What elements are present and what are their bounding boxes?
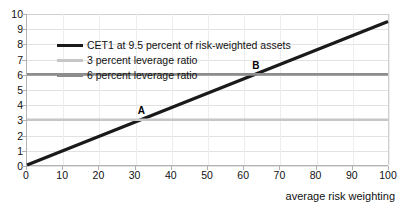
legend-swatch-0	[57, 44, 83, 48]
x-tick-label-30: 30	[120, 170, 150, 181]
x-tick-mark-40	[171, 166, 172, 170]
y-tick-label-9: 9	[3, 24, 23, 35]
y-tick-label-1: 1	[3, 146, 23, 157]
x-tick-mark-90	[352, 166, 353, 170]
x-axis-label: average risk weighting	[286, 190, 395, 202]
y-tick-label-7: 7	[3, 55, 23, 66]
y-tick-label-4: 4	[3, 100, 23, 111]
plot-area: AB CET1 at 9.5 percent of risk-weighted …	[26, 14, 388, 166]
y-tick-label-10: 10	[3, 9, 23, 20]
x-tick-mark-60	[243, 166, 244, 170]
x-tick-label-70: 70	[264, 170, 294, 181]
y-tick-label-2: 2	[3, 131, 23, 142]
chart-legend: CET1 at 9.5 percent of risk-weighted ass…	[57, 39, 291, 82]
x-tick-mark-0	[26, 166, 27, 170]
x-tick-label-40: 40	[156, 170, 186, 181]
legend-label-2: 6 percent leverage ratio	[87, 70, 197, 81]
x-tick-label-90: 90	[337, 170, 367, 181]
x-tick-label-0: 0	[11, 170, 41, 181]
x-tick-mark-100	[388, 166, 389, 170]
legend-swatch-2	[57, 74, 83, 77]
legend-swatch-1	[57, 59, 83, 62]
x-tick-label-100: 100	[373, 170, 403, 181]
chart-figure: 012345678910 AB CET1 at 9.5 percent of r…	[0, 0, 407, 213]
legend-item-1: 3 percent leverage ratio	[57, 54, 291, 67]
x-tick-mark-30	[135, 166, 136, 170]
cropped-title-remnant	[0, 0, 407, 3]
legend-item-2: 6 percent leverage ratio	[57, 69, 291, 82]
x-tick-label-50: 50	[192, 170, 222, 181]
annotation-point-a: A	[138, 106, 145, 116]
data-series-layer	[27, 14, 388, 165]
x-tick-label-80: 80	[301, 170, 331, 181]
legend-label-1: 3 percent leverage ratio	[87, 55, 197, 66]
x-tick-label-60: 60	[228, 170, 258, 181]
x-tick-mark-20	[98, 166, 99, 170]
x-tick-label-10: 10	[47, 170, 77, 181]
legend-label-0: CET1 at 9.5 percent of risk-weighted ass…	[87, 40, 291, 51]
x-tick-mark-50	[207, 166, 208, 170]
x-tick-mark-10	[62, 166, 63, 170]
y-tick-label-5: 5	[3, 85, 23, 96]
x-tick-mark-70	[279, 166, 280, 170]
plot-right-border	[388, 14, 389, 165]
x-tick-label-20: 20	[83, 170, 113, 181]
y-tick-label-8: 8	[3, 39, 23, 50]
gridline-x-100	[389, 14, 390, 165]
x-tick-mark-80	[316, 166, 317, 170]
y-tick-label-6: 6	[3, 70, 23, 81]
legend-item-0: CET1 at 9.5 percent of risk-weighted ass…	[57, 39, 291, 52]
y-tick-label-3: 3	[3, 115, 23, 126]
